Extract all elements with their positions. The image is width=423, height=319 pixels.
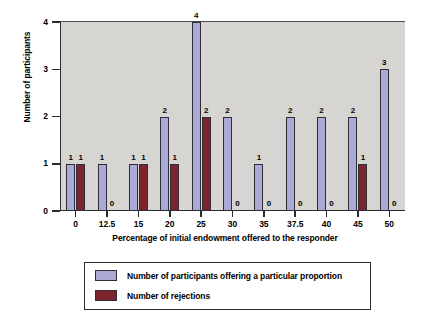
bar-participants <box>380 69 389 211</box>
bar-value-label: 2 <box>152 107 178 115</box>
x-axis-tick <box>326 211 328 217</box>
bar-value-label: 1 <box>162 154 188 162</box>
bar-participants <box>160 117 169 212</box>
bar-value-label: 0 <box>99 200 125 208</box>
bar-value-label: 0 <box>287 200 313 208</box>
legend-label-participants: Number of participants offering a partic… <box>127 271 342 281</box>
bar-value-label: 2 <box>309 107 335 115</box>
x-axis-tick <box>169 211 171 217</box>
bar-rejections <box>139 164 148 211</box>
x-axis-tick <box>294 211 296 217</box>
bar-participants <box>317 117 326 212</box>
x-axis-tick <box>389 211 391 217</box>
x-axis-tick <box>232 211 234 217</box>
bar-value-label: 1 <box>246 154 272 162</box>
y-axis-tick-label: 1 <box>30 159 48 168</box>
bar-value-label: 3 <box>371 59 397 67</box>
x-axis-title: Percentage of initial endowment offered … <box>40 233 410 243</box>
chart-figure: Number of participants 01234 012.5152025… <box>0 0 423 319</box>
bar-rejections <box>170 164 179 211</box>
bar-value-label: 4 <box>183 12 209 20</box>
x-axis-tick <box>263 211 265 217</box>
y-axis-tick-label: 2 <box>30 112 48 121</box>
y-axis-tick <box>52 210 60 212</box>
y-axis-tick <box>52 69 60 71</box>
y-axis-tick-label: 0 <box>30 207 48 216</box>
legend-item-participants: Number of participants offering a partic… <box>95 270 342 281</box>
x-axis-tick <box>138 211 140 217</box>
bar-value-label: 2 <box>277 107 303 115</box>
x-axis-tick-label: 50 <box>369 220 409 229</box>
bar-rejections <box>202 117 211 212</box>
legend-label-rejections: Number of rejections <box>127 291 210 301</box>
bar-value-label: 0 <box>319 200 345 208</box>
bar-participants <box>223 117 232 212</box>
y-axis-tick <box>52 21 60 23</box>
bar-value-label: 2 <box>340 107 366 115</box>
bar-rejections <box>76 164 85 211</box>
y-axis-tick <box>52 116 60 118</box>
legend-swatch-rejections <box>95 290 117 301</box>
x-axis-tick <box>357 211 359 217</box>
bar-value-label: 1 <box>89 154 115 162</box>
bar-value-label: 0 <box>256 200 282 208</box>
bar-participants <box>66 164 75 211</box>
bar-rejections <box>358 164 367 211</box>
bar-participants <box>192 22 201 211</box>
bar-value-label: 0 <box>381 200 407 208</box>
x-axis-tick <box>75 211 77 217</box>
bar-participants <box>286 117 295 212</box>
y-axis-title: Number of participants <box>22 12 32 142</box>
legend-swatch-participants <box>95 270 117 281</box>
bar-value-label: 0 <box>225 200 251 208</box>
chart-legend: Number of participants offering a partic… <box>84 262 371 310</box>
y-axis-tick <box>52 163 60 165</box>
y-axis-tick-label: 3 <box>30 65 48 74</box>
x-axis-tick <box>200 211 202 217</box>
bar-participants <box>129 164 138 211</box>
bar-value-label: 2 <box>215 107 241 115</box>
bar-value-label: 1 <box>350 154 376 162</box>
y-axis-tick-label: 4 <box>30 18 48 27</box>
x-axis-tick <box>106 211 108 217</box>
bar-value-label: 1 <box>130 154 156 162</box>
bar-participants <box>348 117 357 212</box>
legend-item-rejections: Number of rejections <box>95 290 210 301</box>
